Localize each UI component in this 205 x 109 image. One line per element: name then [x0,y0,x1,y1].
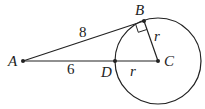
tangent-circle-diagram: A B C D 8 6 r r [0,0,205,109]
label-d: D [100,64,112,80]
label-ab-length: 8 [79,24,87,40]
label-ad-length: 6 [67,61,75,77]
point-c [156,59,160,63]
label-bc-radius: r [154,28,160,44]
label-a: A [7,53,18,69]
label-dc-radius: r [130,63,136,79]
point-d [113,59,117,63]
label-b: B [135,2,144,18]
point-b [142,19,146,23]
point-a [21,59,25,63]
label-c: C [164,53,175,69]
